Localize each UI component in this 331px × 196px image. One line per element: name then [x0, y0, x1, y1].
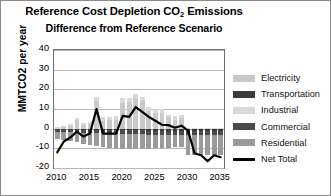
- y-tick-label: -20: [5, 161, 49, 171]
- legend-item[interactable]: Residential: [233, 135, 329, 151]
- x-tick-label: 2010: [46, 172, 66, 182]
- legend-label: Net Total: [261, 154, 297, 164]
- legend-swatch-icon: [233, 75, 255, 82]
- chart-title-pre: Reference Cost Depletion CO: [25, 5, 180, 17]
- legend-swatch-icon: [233, 123, 255, 130]
- chart-legend: ElectricityTransportationIndustrialComme…: [233, 70, 329, 167]
- legend-label: Electricity: [261, 73, 300, 83]
- y-tick-label: -10: [5, 141, 49, 151]
- legend-item[interactable]: Electricity: [233, 70, 329, 86]
- x-tick-label: 2015: [79, 172, 99, 182]
- chart-figure: Reference Cost Depletion CO2 Emissions D…: [0, 0, 331, 196]
- y-tick-label: 40: [5, 43, 49, 53]
- y-tick-label: 0: [5, 122, 49, 132]
- legend-item[interactable]: Transportation: [233, 86, 329, 102]
- legend-label: Residential: [261, 138, 306, 148]
- legend-item[interactable]: Industrial: [233, 102, 329, 118]
- x-tick-label: 2025: [144, 172, 164, 182]
- chart-subtitle: Difference from Reference Scenario: [15, 22, 253, 35]
- net-total-polyline: [57, 107, 220, 161]
- legend-item[interactable]: Net Total: [233, 151, 329, 167]
- chart-title-line1: Reference Cost Depletion CO2 Emissions: [15, 5, 253, 22]
- y-tick-label: 20: [5, 82, 49, 92]
- legend-label: Commercial: [261, 122, 310, 132]
- chart-title: Reference Cost Depletion CO2 Emissions D…: [15, 5, 253, 34]
- y-tick-label: 10: [5, 102, 49, 112]
- legend-swatch-icon: [233, 139, 255, 146]
- legend-label: Industrial: [261, 105, 298, 115]
- legend-item[interactable]: Commercial: [233, 119, 329, 135]
- y-tick-label: 30: [5, 63, 49, 73]
- legend-label: Transportation: [261, 89, 320, 99]
- chart-title-post: Emissions: [184, 5, 243, 17]
- x-axis-tick-labels: 201020152020202520302035: [53, 172, 225, 188]
- plot-area: [53, 49, 225, 169]
- legend-swatch-icon: [233, 107, 255, 114]
- legend-swatch-icon: [233, 91, 255, 98]
- legend-swatch-icon: [233, 158, 255, 161]
- x-tick-label: 2030: [177, 172, 197, 182]
- x-tick-label: 2035: [209, 172, 229, 182]
- y-axis-tick-labels: 403020100-10-20: [1, 49, 53, 169]
- net-total-line: [54, 50, 224, 168]
- x-tick-label: 2020: [111, 172, 131, 182]
- gridline: [54, 168, 224, 169]
